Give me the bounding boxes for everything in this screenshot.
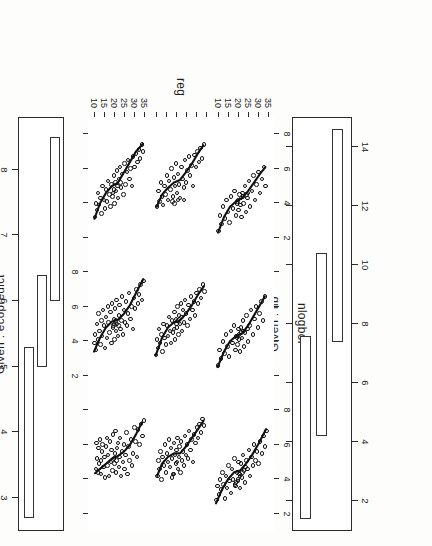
- given-ecopredict-interval: [50, 137, 60, 301]
- axis-tick-reg-minor: [186, 112, 187, 117]
- given-lib-tick-minor: [286, 441, 292, 442]
- scatter-panel: [88, 117, 150, 255]
- loess-curve: [150, 393, 212, 531]
- scatter-panel: [150, 393, 212, 531]
- axis-tick-nlogbor: [83, 271, 88, 272]
- axis-tick-label-reg: 15: [99, 98, 109, 108]
- axis-tick-reg: [258, 112, 259, 117]
- given-lib-interval: [300, 336, 311, 519]
- given-ecopredict-tick-label: 5: [0, 364, 10, 369]
- given-ecopredict-tick-label: 6: [0, 298, 10, 303]
- axis-tick-nlogbor: [274, 478, 279, 479]
- axis-tick-label-reg: 10: [89, 98, 99, 108]
- given-lib-tick-label: 2: [360, 499, 371, 504]
- axis-tick-nlogbor: [274, 133, 279, 134]
- given-lib-tick-label: 12: [360, 200, 371, 211]
- axis-tick-reg: [248, 112, 249, 117]
- axis-tick-label-nlogbor: 8: [282, 132, 292, 137]
- given-lib-tick-minor: [286, 382, 292, 383]
- axis-tick-reg: [238, 112, 239, 117]
- scatter-panel: [88, 393, 150, 531]
- axis-tick-nlogbor-minor: [83, 237, 88, 238]
- axis-tick-reg: [134, 112, 135, 117]
- axis-tick-label-reg: 20: [109, 98, 119, 108]
- axis-tick-label-nlogbor: 2: [282, 235, 292, 240]
- axis-tick-nlogbor: [83, 306, 88, 307]
- given-ecopredict-tick-label: 4: [0, 430, 10, 435]
- scatter-panel: [212, 255, 274, 393]
- axis-tick-reg-minor: [176, 112, 177, 117]
- axis-tick-label-reg: 30: [253, 98, 263, 108]
- given-lib-tick: [352, 500, 358, 501]
- axis-tick-nlogbor-minor: [83, 202, 88, 203]
- axis-tick-label-nlogbor: 6: [282, 166, 292, 171]
- given-lib-tick-label: 6: [360, 381, 371, 386]
- given-lib-tick: [352, 441, 358, 442]
- axis-tick-nlogbor: [274, 409, 279, 410]
- given-ecopredict-tick-label: 8: [0, 167, 10, 172]
- axis-tick-reg: [114, 112, 115, 117]
- given-ecopredict-tick: [12, 300, 18, 301]
- axis-tick-nlogbor: [274, 237, 279, 238]
- axis-tick-nlogbor: [274, 168, 279, 169]
- axis-tick-label-reg: 30: [129, 98, 139, 108]
- coplot-figure: Given : ecopredict Given : lib 101520253…: [0, 0, 400, 546]
- axis-tick-nlogbor-minor: [274, 271, 279, 272]
- scatter-panel: [150, 255, 212, 393]
- axis-tick-reg-minor: [156, 112, 157, 117]
- axis-tick-label-nlogbor: 4: [70, 339, 80, 344]
- loess-curve: [212, 117, 274, 255]
- axis-tick-nlogbor-minor: [83, 409, 88, 410]
- axis-tick-nlogbor-minor: [83, 168, 88, 169]
- given-ecopredict-tick-label: 3: [0, 496, 10, 501]
- axis-tick-label-reg: 20: [233, 98, 243, 108]
- axis-tick-reg: [94, 112, 95, 117]
- scatter-panel: [150, 117, 212, 255]
- axis-tick-nlogbor: [274, 513, 279, 514]
- axis-tick-reg: [268, 112, 269, 117]
- scatter-panel: [88, 255, 150, 393]
- axis-tick-reg: [144, 112, 145, 117]
- given-lib-tick: [352, 205, 358, 206]
- given-lib-tick-minor: [286, 500, 292, 501]
- given-lib-tick-label: 8: [360, 321, 371, 326]
- given-ecopredict-tick: [12, 169, 18, 170]
- loess-curve: [212, 393, 274, 531]
- given-ecopredict-interval: [37, 275, 47, 367]
- axis-tick-label-nlogbor: 4: [282, 477, 292, 482]
- loess-curve: [212, 255, 274, 393]
- axis-tick-label-reg: 15: [223, 98, 233, 108]
- given-lib-interval: [316, 253, 327, 436]
- axis-tick-reg: [104, 112, 105, 117]
- figure-page: Fig. 31. Log of nonzero borrowing and th…: [0, 0, 432, 546]
- given-lib-tick-minor: [286, 323, 292, 324]
- axis-tick-label-nlogbor: 2: [282, 511, 292, 516]
- axis-tick-reg: [218, 112, 219, 117]
- given-ecopredict-tick: [12, 366, 18, 367]
- loess-curve: [150, 117, 212, 255]
- axis-tick-nlogbor: [274, 444, 279, 445]
- loess-curve: [88, 117, 150, 255]
- loess-curve: [88, 393, 150, 531]
- given-ecopredict-tick: [12, 497, 18, 498]
- loess-curve: [88, 255, 150, 393]
- axis-tick-nlogbor: [83, 375, 88, 376]
- axis-tick-nlogbor-minor: [83, 133, 88, 134]
- given-lib-tick-label: 14: [360, 141, 371, 152]
- given-lib-tick-label: 4: [360, 440, 371, 445]
- axis-tick-label-nlogbor: 8: [70, 270, 80, 275]
- axis-tick-nlogbor-minor: [274, 375, 279, 376]
- given-lib-tick: [352, 323, 358, 324]
- axis-name-reg: reg: [174, 78, 188, 96]
- scatter-panel: [212, 117, 274, 255]
- given-ecopredict-tick: [12, 431, 18, 432]
- given-lib-tick-minor: [286, 205, 292, 206]
- axis-tick-label-reg: 35: [263, 98, 273, 108]
- axis-tick-reg: [228, 112, 229, 117]
- given-lib-interval: [332, 129, 343, 342]
- loess-curve: [150, 255, 212, 393]
- axis-tick-label-nlogbor: 8: [282, 408, 292, 413]
- axis-tick-label-nlogbor: 6: [70, 304, 80, 309]
- axis-tick-label-reg: 25: [119, 98, 129, 108]
- axis-tick-nlogbor-minor: [274, 340, 279, 341]
